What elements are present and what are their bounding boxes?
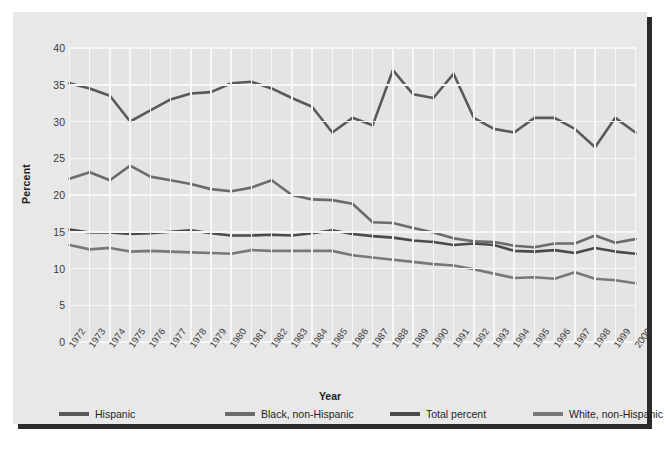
gridline-vertical — [635, 48, 637, 342]
legend-label: Black, non-Hispanic — [261, 408, 354, 420]
y-tick-label: 40 — [31, 43, 65, 54]
y-tick-label: 15 — [31, 227, 65, 238]
gridline-vertical — [615, 48, 617, 342]
y-tick-label: 25 — [31, 153, 65, 164]
gridline-vertical — [433, 48, 435, 342]
gridline-vertical — [129, 48, 131, 342]
legend-swatch-icon — [59, 412, 89, 416]
gridline-vertical — [332, 48, 334, 342]
y-tick-label: 5 — [31, 300, 65, 311]
y-tick-label: 20 — [31, 190, 65, 201]
gridline-vertical — [190, 48, 192, 342]
gridline-vertical — [513, 48, 515, 342]
legend-label: Total percent — [426, 408, 486, 420]
gridline-vertical — [69, 48, 71, 342]
y-tick-label: 10 — [31, 264, 65, 275]
gridline-vertical — [150, 48, 152, 342]
gridline-vertical — [534, 48, 536, 342]
gridline-vertical — [170, 48, 172, 342]
chart-legend: HispanicBlack, non-HispanicTotal percent… — [13, 408, 647, 430]
gridline-vertical — [473, 48, 475, 342]
y-axis-ticks: 0510152025303540 — [27, 48, 65, 342]
gridline-vertical — [352, 48, 354, 342]
gridline-vertical — [291, 48, 293, 342]
gridline-vertical — [210, 48, 212, 342]
gridline-vertical — [453, 48, 455, 342]
x-axis-ticks: 1972197319741975197619771978197919801981… — [69, 344, 636, 388]
gridline-vertical — [493, 48, 495, 342]
y-tick-label: 0 — [31, 337, 65, 348]
panel-shadow-right — [647, 17, 652, 429]
x-axis-title: Year — [13, 390, 647, 402]
legend-item[interactable]: White, non-Hispanic — [533, 408, 663, 420]
plot-area — [69, 48, 636, 342]
y-tick-label: 30 — [31, 117, 65, 128]
chart-panel: Percent 0510152025303540 197219731974197… — [13, 12, 647, 424]
chart-screenshot: Percent 0510152025303540 197219731974197… — [0, 0, 668, 455]
legend-swatch-icon — [390, 412, 420, 416]
legend-item[interactable]: Black, non-Hispanic — [225, 408, 354, 420]
gridline-vertical — [554, 48, 556, 342]
gridline-vertical — [89, 48, 91, 342]
gridline-vertical — [230, 48, 232, 342]
gridline-vertical — [574, 48, 576, 342]
legend-item[interactable]: Hispanic — [59, 408, 135, 420]
legend-label: Hispanic — [95, 408, 135, 420]
gridline-vertical — [372, 48, 374, 342]
gridline-vertical — [271, 48, 273, 342]
legend-item[interactable]: Total percent — [390, 408, 486, 420]
gridline-vertical — [594, 48, 596, 342]
legend-swatch-icon — [533, 412, 563, 416]
gridline-vertical — [109, 48, 111, 342]
legend-swatch-icon — [225, 412, 255, 416]
legend-label: White, non-Hispanic — [569, 408, 663, 420]
gridline-vertical — [311, 48, 313, 342]
y-tick-label: 35 — [31, 80, 65, 91]
gridline-vertical — [412, 48, 414, 342]
gridline-vertical — [251, 48, 253, 342]
gridline-vertical — [392, 48, 394, 342]
